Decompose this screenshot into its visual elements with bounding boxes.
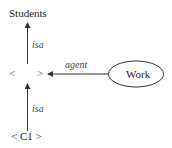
anonymous-node-right-bracket: >	[37, 68, 43, 79]
agent-label: agent	[65, 60, 87, 70]
students-node: Students	[9, 8, 47, 19]
semantic-network-diagram: Students isa < > agent Work isa < C1 >	[0, 0, 172, 148]
work-node-label: Work	[126, 69, 150, 80]
isa-label-bottom: isa	[32, 104, 44, 114]
anonymous-node-left-bracket: <	[9, 68, 15, 79]
c1-node: < C1 >	[11, 131, 42, 142]
isa-label-top: isa	[32, 40, 44, 50]
